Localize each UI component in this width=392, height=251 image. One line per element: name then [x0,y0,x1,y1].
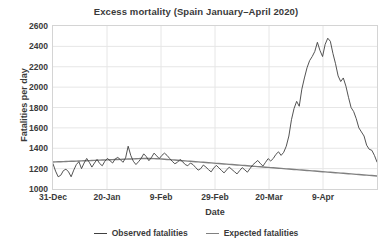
x-tick-label: 20-Jan [94,192,121,202]
x-tick-label: 9-Apr [312,192,334,202]
gridlines [53,26,377,189]
legend-label: Expected fatalities [224,228,299,238]
y-tick-label: 2000 [12,82,48,92]
y-tick-label: 2400 [12,41,48,51]
x-tick-label: 20-Mar [255,192,282,202]
x-axis-label: Date [52,207,378,217]
legend-item: Expected fatalities [206,228,299,238]
series-canvas [53,26,377,189]
y-tick-label: 2600 [12,21,48,31]
x-tick-label: 29-Feb [201,192,228,202]
y-tick-label: 2200 [12,62,48,72]
chart-title: Excess mortality (Spain January–April 20… [0,6,392,17]
y-tick-label: 1800 [12,103,48,113]
legend-label: Observed fatalities [112,228,188,238]
legend-item: Observed fatalities [94,228,188,238]
legend-line-icon [206,233,219,234]
y-tick-label: 1200 [12,164,48,174]
legend-line-icon [94,233,107,234]
y-tick-label: 1600 [12,123,48,133]
x-tick-label: 9-Feb [150,192,173,202]
chart-legend: Observed fatalitiesExpected fatalities [0,228,392,238]
plot-area [52,25,378,190]
y-tick-label: 1400 [12,143,48,153]
excess-mortality-chart: Excess mortality (Spain January–April 20… [0,0,392,251]
x-tick-label: 31-Dec [39,192,67,202]
